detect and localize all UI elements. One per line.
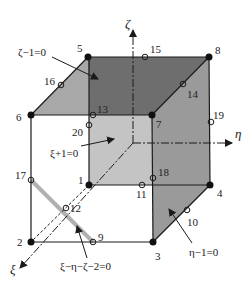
node-label-15: 15 [150, 43, 162, 55]
node-label-20: 20 [72, 126, 84, 138]
node-label-19: 19 [213, 109, 225, 121]
back-face [89, 115, 152, 185]
node-label-7: 7 [156, 118, 162, 130]
node-label-17: 17 [15, 169, 27, 181]
node-label-12: 12 [70, 202, 81, 214]
node-label-10: 10 [187, 216, 199, 228]
node-label-9: 9 [98, 231, 104, 243]
eta-axis-label: η [235, 126, 241, 141]
cut-plane-equation: ξ−η−ζ−2=0 [60, 260, 112, 273]
node-label-14: 14 [187, 88, 199, 100]
node-6 [28, 112, 35, 119]
node-1 [86, 182, 93, 189]
node-8 [206, 54, 213, 61]
node-label-6: 6 [16, 111, 22, 123]
node-label-2: 2 [17, 236, 23, 248]
top-face-equation: ζ−1=0 [18, 46, 46, 59]
right-face-equation: η−1=0 [189, 246, 219, 258]
node-label-11: 11 [136, 188, 147, 200]
node-5 [85, 54, 92, 61]
node-3 [150, 239, 157, 246]
node-label-5: 5 [77, 42, 83, 54]
node-label-4: 4 [217, 187, 223, 199]
zeta-axis-label: ζ [125, 16, 131, 31]
node-label-13: 13 [97, 103, 109, 115]
node-label-18: 18 [158, 166, 170, 178]
back-face-equation: ξ+1=0 [50, 147, 79, 160]
node-label-1: 1 [78, 174, 84, 186]
node-label-3: 3 [155, 250, 161, 262]
node-label-16: 16 [44, 75, 56, 87]
node-7 [149, 112, 156, 119]
node-label-8: 8 [215, 44, 221, 56]
hexahedral-element-diagram: ζ η ξ 1 2 3 4 5 6 7 8 9 10 [0, 0, 250, 287]
xi-axis-label: ξ [10, 262, 16, 277]
node-2 [28, 239, 35, 246]
node-4 [207, 182, 214, 189]
